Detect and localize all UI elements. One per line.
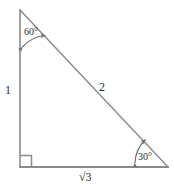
angle-label-30: 30° (138, 152, 152, 162)
side-label-vertical-leg: 1 (5, 84, 11, 96)
geometry-figure: 1 2 60° 30° √3 (0, 0, 174, 192)
side-label-hypotenuse: 2 (99, 81, 105, 93)
side-label-base: √3 (79, 171, 92, 183)
right-angle-marker-icon (20, 156, 32, 168)
angle-label-60: 60° (24, 27, 38, 37)
triangle-side-hypotenuse (20, 10, 168, 167)
angle-arc-60-icon (23, 36, 46, 48)
